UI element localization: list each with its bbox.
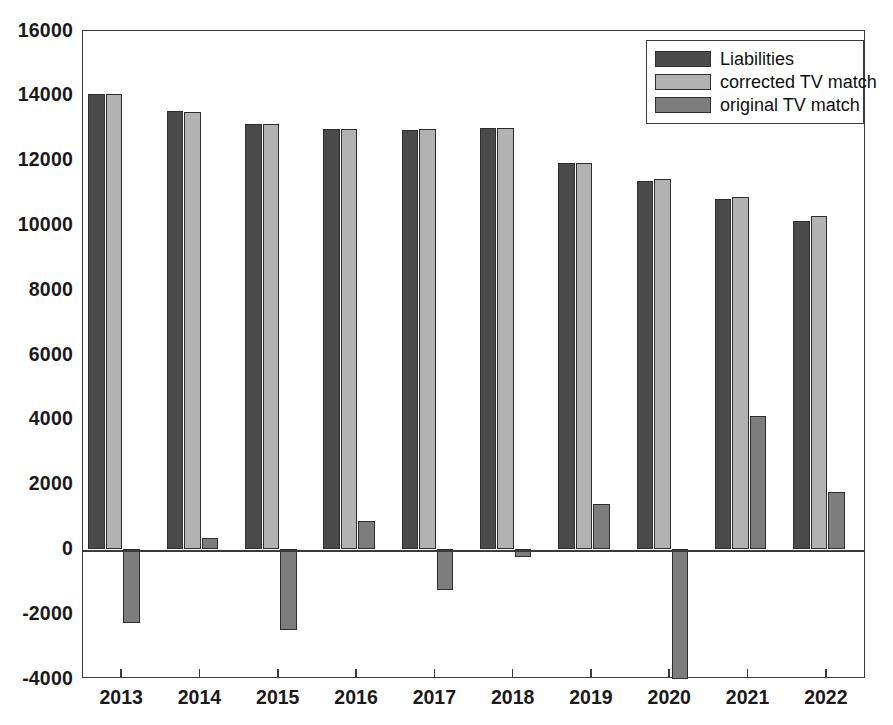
x-axis-tick-label: 2015	[256, 686, 299, 709]
bar-2013-series-3	[123, 549, 140, 622]
legend-swatch-icon	[655, 51, 711, 67]
y-axis-tick-label: 8000	[29, 277, 82, 300]
bar-2019-series-2	[576, 163, 593, 550]
bar-chart-figure: 1600014000120001000080006000400020000-20…	[0, 0, 893, 725]
y-axis-tick-label: 12000	[18, 148, 82, 171]
x-axis-tick-mark	[434, 669, 436, 678]
bar-2022-series-3	[828, 492, 845, 549]
x-axis-tick-mark	[668, 669, 670, 678]
y-axis-tick-label: -4000	[22, 666, 82, 689]
x-axis-tick-mark	[277, 669, 279, 678]
y-axis-tick-label: 2000	[29, 472, 82, 495]
x-axis-tick-label: 2018	[491, 686, 534, 709]
bar-2019-series-1	[558, 163, 575, 550]
x-axis-tick-label: 2014	[178, 686, 221, 709]
y-axis-tick-label: 10000	[18, 212, 82, 235]
bar-2022-series-2	[811, 216, 828, 549]
zero-baseline	[82, 550, 865, 552]
x-axis-tick-mark	[825, 669, 827, 678]
legend-swatch-icon	[655, 74, 711, 90]
bar-2020-series-2	[654, 179, 671, 549]
x-axis-tick-label: 2021	[726, 686, 769, 709]
bar-2021-series-1	[715, 199, 732, 549]
x-axis-tick-mark	[120, 669, 122, 678]
legend-entry: Liabilities	[655, 47, 855, 70]
bar-2013-series-2	[106, 94, 123, 550]
x-axis-tick-label: 2013	[99, 686, 142, 709]
x-axis-tick-mark	[747, 669, 749, 678]
bar-2015-series-1	[245, 124, 262, 549]
y-axis-tick-label: 0	[62, 536, 82, 559]
bar-2014-series-3	[202, 538, 219, 549]
x-axis-tick-label: 2022	[804, 686, 847, 709]
x-axis-tick-label: 2019	[569, 686, 612, 709]
bar-2016-series-3	[358, 521, 375, 549]
plot-area	[82, 30, 865, 678]
bar-2021-series-3	[750, 416, 767, 549]
y-axis-tick-label: 6000	[29, 342, 82, 365]
x-axis-tick-mark	[590, 669, 592, 678]
bar-2014-series-2	[184, 112, 201, 549]
bar-2019-series-3	[593, 504, 610, 549]
bar-2017-series-2	[419, 129, 436, 549]
bar-2017-series-1	[402, 130, 419, 550]
y-axis-tick-label: 16000	[18, 18, 82, 41]
chart-legend: Liabilitiescorrected TV matchoriginal TV…	[646, 40, 864, 124]
legend-label: Liabilities	[720, 50, 794, 68]
legend-label: original TV match	[720, 96, 860, 114]
bar-2013-series-1	[88, 94, 105, 550]
y-axis-tick-label: 14000	[18, 83, 82, 106]
bar-2015-series-2	[263, 124, 280, 549]
bar-2015-series-3	[280, 549, 297, 630]
x-axis-tick-mark	[512, 669, 514, 678]
bar-2018-series-1	[480, 128, 497, 549]
bar-2020-series-3	[672, 549, 689, 679]
legend-swatch-icon	[655, 97, 711, 113]
bar-2016-series-2	[341, 129, 358, 549]
bar-2020-series-1	[637, 181, 654, 550]
y-axis-tick-label: 4000	[29, 407, 82, 430]
legend-label: corrected TV match	[720, 73, 877, 91]
x-axis-tick-mark	[199, 669, 201, 678]
bar-2016-series-1	[323, 129, 340, 549]
y-axis-tick-label: -2000	[22, 601, 82, 624]
bar-2021-series-2	[732, 197, 749, 550]
x-axis-tick-label: 2016	[334, 686, 377, 709]
bar-2017-series-3	[437, 549, 454, 590]
x-axis-tick-label: 2017	[413, 686, 456, 709]
bar-2014-series-1	[167, 111, 184, 550]
legend-entry: original TV match	[655, 93, 855, 116]
x-axis-tick-label: 2020	[648, 686, 691, 709]
bar-2022-series-1	[793, 221, 810, 550]
bar-2018-series-2	[497, 128, 514, 550]
x-axis-tick-mark	[355, 669, 357, 678]
legend-entry: corrected TV match	[655, 70, 855, 93]
